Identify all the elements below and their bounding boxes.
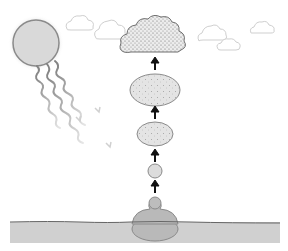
evaporation-diagram	[0, 0, 288, 251]
arrow-up-icon	[151, 106, 159, 119]
cloud-icon	[95, 20, 126, 39]
arrow-up-icon	[151, 180, 159, 193]
droplet-detaching	[149, 197, 161, 209]
vapor-mass-large	[130, 74, 180, 106]
arrow-up-icon	[151, 57, 159, 70]
storm-cloud-icon	[120, 15, 185, 52]
droplet-small	[148, 164, 162, 178]
rising-stages	[130, 74, 180, 178]
cloud-icon	[66, 16, 93, 31]
sun-rays	[36, 61, 85, 143]
arrow-up-icon	[151, 149, 159, 162]
ray-icon	[47, 64, 83, 143]
diagram-canvas	[0, 0, 288, 251]
arrowhead-icon	[106, 142, 111, 147]
water-body	[10, 197, 280, 243]
vapor-mass-medium	[137, 122, 173, 146]
cloud-icon	[198, 25, 227, 41]
arrowhead-icon	[95, 107, 100, 112]
arrowhead-icon	[76, 116, 81, 121]
cloud-icon	[250, 21, 274, 33]
